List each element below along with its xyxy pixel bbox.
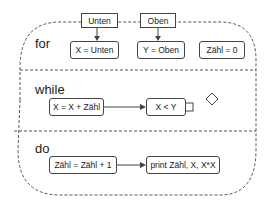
box-zahl-init[interactable]: Zähl = 0	[199, 41, 245, 59]
input-unten[interactable]: Unten	[81, 13, 118, 28]
section-label-do: do	[35, 141, 49, 156]
box-x-unten[interactable]: X = Unten	[70, 41, 119, 59]
box-y-oben[interactable]: Y = Oben	[137, 41, 185, 59]
box-condition[interactable]: X < Y	[146, 98, 186, 116]
box-x-increment[interactable]: X = X + Zähl	[49, 98, 104, 116]
box-zahl-increment[interactable]: Zähl = Zähl + 1	[49, 156, 117, 174]
section-label-while: while	[35, 82, 65, 97]
input-oben[interactable]: Oben	[140, 13, 176, 28]
box-print[interactable]: print Zähl, X, X*X	[146, 156, 220, 174]
diagram-lines	[0, 0, 268, 211]
section-label-for: for	[35, 36, 50, 51]
